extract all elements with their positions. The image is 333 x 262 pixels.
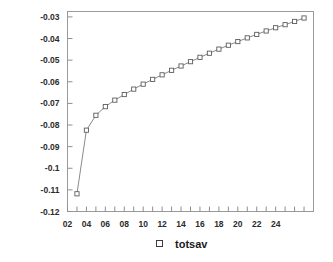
y-tick-label: -0.06 [40, 77, 60, 87]
data-point-marker [292, 19, 296, 23]
x-axis-tick-labels: 020406081012141618202224 [63, 219, 281, 229]
x-tick-label: 04 [82, 219, 92, 229]
y-tick-label: -0.12 [40, 207, 60, 217]
open-square-marker-icon [157, 241, 163, 247]
x-tick-label: 10 [138, 219, 148, 229]
data-point-marker [255, 32, 259, 36]
plot-frame [68, 12, 314, 212]
legend-label-totsav: totsav [175, 238, 208, 250]
y-axis-tick-labels: -0.03-0.04-0.05-0.06-0.07-0.08-0.09-0.1-… [40, 12, 60, 217]
data-point-marker [179, 64, 183, 68]
data-point-marker [198, 55, 202, 59]
x-tick-label: 20 [233, 219, 243, 229]
data-point-marker [264, 29, 268, 33]
data-point-marker [169, 68, 173, 72]
y-tick-label: -0.07 [40, 98, 60, 108]
data-point-marker [274, 26, 278, 30]
data-point-marker [245, 36, 249, 40]
data-point-marker [151, 77, 155, 81]
data-point-marker [75, 192, 79, 196]
data-point-marker [103, 105, 107, 109]
x-tick-label: 08 [120, 219, 130, 229]
y-tick-label: -0.11 [41, 185, 60, 195]
y-axis-ticks [68, 17, 73, 212]
x-tick-label: 22 [252, 219, 262, 229]
data-point-marker [122, 92, 126, 96]
data-point-marker [132, 87, 136, 91]
x-tick-label: 18 [214, 219, 224, 229]
series-markers-totsav [75, 16, 306, 196]
data-point-marker [84, 128, 88, 132]
x-tick-label: 14 [176, 219, 186, 229]
series-line-totsav [77, 18, 304, 194]
y-tick-label: -0.03 [40, 12, 60, 22]
data-point-marker [217, 47, 221, 51]
x-tick-label: 16 [195, 219, 205, 229]
y-tick-label: -0.05 [40, 55, 60, 65]
data-point-marker [160, 73, 164, 77]
data-point-marker [226, 43, 230, 47]
y-tick-label: -0.08 [40, 120, 60, 130]
x-tick-label: 02 [63, 219, 73, 229]
data-point-marker [283, 23, 287, 27]
data-point-marker [188, 60, 192, 64]
data-point-marker [94, 113, 98, 117]
data-point-marker [207, 51, 211, 55]
data-point-marker [236, 39, 240, 43]
data-point-marker [141, 82, 145, 86]
y-tick-label: -0.09 [40, 142, 60, 152]
x-tick-label: 06 [101, 219, 111, 229]
y-tick-label: -0.04 [40, 34, 60, 44]
data-point-marker [113, 98, 117, 102]
x-tick-label: 12 [157, 219, 167, 229]
y-tick-label: -0.1 [45, 163, 60, 173]
chart-container: -0.03-0.04-0.05-0.06-0.07-0.08-0.09-0.1-… [0, 0, 333, 262]
line-chart: -0.03-0.04-0.05-0.06-0.07-0.08-0.09-0.1-… [0, 0, 333, 262]
x-axis-ticks [68, 207, 305, 212]
x-tick-label: 24 [271, 219, 281, 229]
data-point-marker [302, 16, 306, 20]
